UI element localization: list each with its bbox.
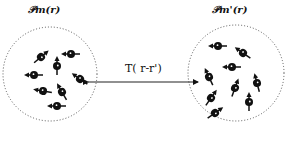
spin-particle bbox=[53, 56, 61, 75]
spin-arrow-icon bbox=[234, 78, 240, 84]
spin-particle bbox=[203, 88, 220, 108]
spin-arrow-icon bbox=[47, 104, 52, 109]
spin-particle bbox=[201, 66, 216, 87]
diagram-canvas: 𝒫m(r) 𝒫m'(r) T( r-r') bbox=[0, 0, 285, 142]
right-particles bbox=[201, 42, 263, 121]
spin-particle bbox=[222, 63, 241, 71]
spin-arrow-icon bbox=[208, 44, 213, 49]
right-region-label: 𝒫m'(r) bbox=[212, 4, 247, 16]
spin-particle bbox=[47, 102, 66, 110]
spin-particle bbox=[228, 77, 242, 98]
spin-arrow-icon bbox=[252, 73, 258, 79]
spin-particle bbox=[32, 85, 52, 96]
spin-particle bbox=[70, 70, 90, 87]
spin-particle bbox=[208, 42, 227, 50]
spin-arrow-icon bbox=[33, 87, 39, 93]
spin-arrow-icon bbox=[247, 92, 252, 97]
spin-particle bbox=[24, 71, 43, 79]
left-region-label: 𝒫m(r) bbox=[28, 4, 60, 16]
spin-particle bbox=[233, 44, 253, 61]
spin-arrow-icon bbox=[55, 82, 62, 89]
spin-arrow-icon bbox=[24, 73, 29, 78]
spin-particle bbox=[251, 72, 264, 92]
spin-particle bbox=[54, 81, 70, 101]
spin-particle bbox=[245, 92, 253, 111]
spin-arrow-icon bbox=[61, 52, 66, 57]
spin-arrow-icon bbox=[203, 67, 210, 74]
right-region-boundary bbox=[188, 25, 284, 121]
spin-particle bbox=[32, 48, 52, 66]
left-particles bbox=[24, 48, 90, 110]
spin-arrow-icon bbox=[222, 65, 227, 70]
spin-particle bbox=[205, 104, 225, 121]
interaction-label: T( r-r') bbox=[125, 62, 162, 75]
spin-particle bbox=[61, 50, 80, 58]
spin-arrow-icon bbox=[55, 56, 60, 61]
